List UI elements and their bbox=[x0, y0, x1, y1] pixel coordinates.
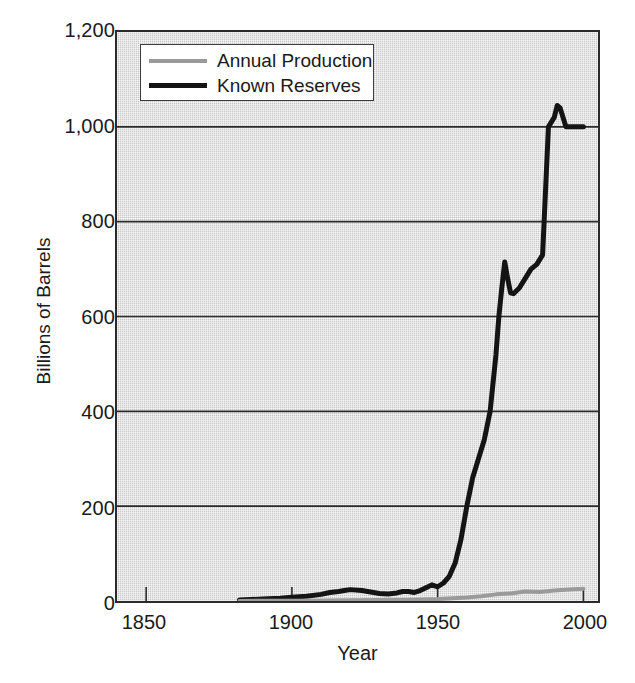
chart-figure: 1,200 1,000 800 600 400 200 0 Billions o… bbox=[0, 0, 635, 683]
y-tick-label-400: 400 bbox=[15, 402, 115, 422]
chart-plot-svg bbox=[117, 32, 598, 601]
data-series-layer bbox=[239, 105, 583, 600]
x-tick-label-1950: 1950 bbox=[378, 612, 498, 632]
plot-area: Annual Production Known Reserves bbox=[115, 30, 600, 603]
legend-label-known-reserves: Known Reserves bbox=[217, 76, 361, 95]
series-line-known-reserves bbox=[239, 105, 583, 600]
x-axis-label: Year bbox=[115, 642, 600, 665]
chart-legend: Annual Production Known Reserves bbox=[140, 44, 374, 101]
legend-label-annual-production: Annual Production bbox=[217, 51, 372, 70]
x-tick-label-1850: 1850 bbox=[84, 612, 204, 632]
y-tick-label-600: 600 bbox=[15, 307, 115, 327]
y-tick-label-0: 0 bbox=[15, 593, 115, 613]
legend-swatch-annual-production-icon bbox=[149, 59, 207, 63]
y-tick-label-200: 200 bbox=[15, 498, 115, 518]
x-tick-label-2000: 2000 bbox=[525, 612, 635, 632]
x-tick-label-1900: 1900 bbox=[231, 612, 351, 632]
legend-item-known-reserves: Known Reserves bbox=[141, 73, 373, 98]
legend-item-annual-production: Annual Production bbox=[141, 48, 373, 73]
legend-swatch-known-reserves-icon bbox=[149, 83, 207, 88]
y-tick-label-1200: 1,200 bbox=[15, 20, 115, 40]
y-axis-label: Billions of Barrels bbox=[33, 201, 55, 421]
gridlines bbox=[117, 127, 598, 506]
y-tick-label-1000: 1,000 bbox=[15, 116, 115, 136]
y-tick-label-800: 800 bbox=[15, 211, 115, 231]
